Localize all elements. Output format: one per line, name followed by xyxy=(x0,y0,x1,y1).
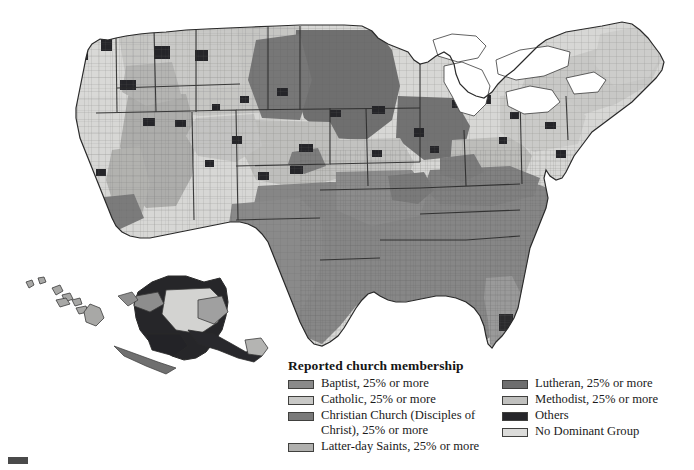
legend-swatch-latter-day-saints xyxy=(288,443,314,452)
legend-swatch-disciples xyxy=(288,412,314,421)
legend-label-baptist: Baptist, 25% or more xyxy=(321,376,429,391)
map-legend: Reported church membership Baptist, 25% … xyxy=(283,358,688,458)
legend-label-methodist: Methodist, 25% or more xyxy=(535,392,658,407)
legend-label-others: Others xyxy=(535,408,569,423)
alaska-inset xyxy=(114,276,268,374)
legend-item-disciples: Christian Church (Disciples of Christ), … xyxy=(288,408,508,438)
legend-label-catholic: Catholic, 25% or more xyxy=(321,392,436,407)
legend-item-catholic: Catholic, 25% or more xyxy=(288,392,508,407)
hawaii-inset xyxy=(26,277,104,326)
legend-item-no-dominant-group: No Dominant Group xyxy=(502,424,694,439)
legend-item-methodist: Methodist, 25% or more xyxy=(502,392,694,407)
legend-item-others: Others xyxy=(502,408,694,423)
legend-swatch-methodist xyxy=(502,396,528,405)
legend-label-no-dominant-group: No Dominant Group xyxy=(535,424,639,439)
legend-column-right: Lutheran, 25% or more Methodist, 25% or … xyxy=(502,376,694,440)
legend-item-latter-day-saints: Latter-day Saints, 25% or more xyxy=(288,439,508,454)
legend-column-left: Baptist, 25% or more Catholic, 25% or mo… xyxy=(288,376,508,455)
legend-item-lutheran: Lutheran, 25% or more xyxy=(502,376,694,391)
legend-label-latter-day-saints: Latter-day Saints, 25% or more xyxy=(321,439,479,454)
legend-label-disciples: Christian Church (Disciples of Christ), … xyxy=(321,408,475,438)
legend-swatch-catholic xyxy=(288,396,314,405)
legend-swatch-no-dominant-group xyxy=(502,428,528,437)
legend-swatch-baptist xyxy=(288,380,314,389)
church-membership-map-figure: Reported church membership Baptist, 25% … xyxy=(0,0,694,470)
legend-label-lutheran: Lutheran, 25% or more xyxy=(535,376,653,391)
legend-swatch-lutheran xyxy=(502,380,528,389)
page-edge-mark xyxy=(8,457,28,464)
legend-item-baptist: Baptist, 25% or more xyxy=(288,376,508,391)
legend-title: Reported church membership xyxy=(288,358,464,374)
legend-swatch-others xyxy=(502,412,528,421)
